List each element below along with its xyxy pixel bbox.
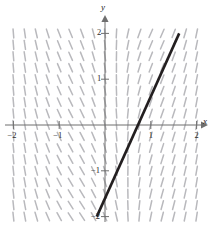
- slope-mark: [92, 109, 95, 117]
- plot-canvas: [0, 0, 213, 228]
- slope-mark: [80, 75, 84, 83]
- slope-mark: [13, 178, 14, 187]
- slope-mark: [13, 201, 14, 210]
- slope-mark: [92, 132, 96, 140]
- slope-mark: [69, 75, 73, 83]
- slope-mark: [127, 40, 129, 49]
- y-axis-arrowhead: [101, 15, 108, 22]
- slope-mark: [116, 109, 117, 118]
- slope-mark: [92, 86, 95, 95]
- slope-mark: [46, 75, 49, 84]
- slope-mark: [35, 52, 37, 61]
- slope-mark: [92, 41, 94, 50]
- slope-mark: [92, 178, 96, 186]
- slope-mark: [13, 143, 14, 152]
- slope-mark: [57, 178, 61, 186]
- slope-mark: [139, 143, 141, 152]
- slope-mark: [69, 41, 73, 49]
- slope-mark: [13, 86, 14, 95]
- slope-mark: [196, 166, 198, 175]
- slope-mark: [184, 86, 186, 95]
- slope-mark: [46, 167, 49, 175]
- slope-mark: [68, 213, 73, 221]
- x-axis-label: x: [203, 117, 207, 126]
- slope-mark: [35, 40, 37, 49]
- slope-mark: [173, 189, 175, 198]
- slope-mark: [13, 63, 14, 72]
- slope-mark: [57, 190, 61, 198]
- slope-mark: [35, 132, 37, 141]
- slope-mark: [116, 155, 117, 164]
- slope-mark: [68, 144, 72, 152]
- slope-mark: [91, 190, 95, 198]
- slope-mark: [128, 132, 129, 141]
- slope-mark: [138, 29, 141, 37]
- slope-mark: [161, 132, 164, 141]
- slope-mark: [196, 63, 198, 72]
- y-tick-label: 2: [97, 28, 101, 37]
- slope-mark: [92, 155, 96, 163]
- slope-mark: [13, 155, 14, 164]
- slope-mark: [69, 110, 73, 118]
- slope-mark: [196, 52, 198, 61]
- y-axis-label: y: [101, 3, 105, 12]
- slope-mark: [80, 64, 83, 72]
- slope-mark: [58, 29, 61, 37]
- slope-mark: [160, 41, 164, 49]
- slope-mark: [80, 213, 85, 221]
- slope-mark: [35, 155, 37, 164]
- slope-mark: [150, 201, 152, 210]
- slope-mark: [127, 63, 128, 72]
- slope-mark: [68, 178, 73, 186]
- slope-mark: [57, 167, 61, 175]
- slope-mark: [57, 52, 60, 60]
- y-tick-label: −2: [91, 212, 100, 221]
- slope-mark: [116, 201, 118, 210]
- slope-mark: [150, 189, 152, 198]
- slope-mark: [161, 86, 164, 94]
- slope-mark: [80, 87, 84, 95]
- slope-mark: [139, 178, 140, 187]
- slope-mark: [127, 86, 128, 95]
- slope-mark: [24, 189, 26, 198]
- slope-mark: [172, 109, 175, 118]
- slope-mark: [184, 155, 186, 164]
- slope-mark: [80, 132, 84, 140]
- slope-mark: [127, 98, 128, 107]
- slope-mark: [80, 201, 85, 209]
- slope-mark: [161, 155, 164, 164]
- slope-mark: [24, 155, 26, 164]
- slope-mark: [161, 166, 164, 175]
- slope-mark: [80, 110, 84, 118]
- slope-mark: [184, 98, 186, 107]
- x-tick-label: 2: [195, 131, 199, 140]
- slope-mark: [80, 190, 85, 198]
- slope-mark: [69, 87, 73, 95]
- slope-mark: [35, 86, 37, 95]
- slope-mark: [138, 109, 140, 118]
- slope-mark: [58, 41, 61, 49]
- slope-mark: [46, 98, 49, 106]
- slope-mark: [184, 189, 186, 198]
- slope-mark: [35, 109, 37, 118]
- y-tick-label: −1: [91, 166, 100, 175]
- slope-mark: [68, 155, 72, 163]
- slope-mark: [24, 75, 25, 84]
- slope-mark: [116, 178, 118, 187]
- slope-mark: [35, 75, 37, 84]
- slope-mark: [46, 52, 49, 61]
- slope-mark: [172, 75, 175, 84]
- x-tick-label: −1: [53, 131, 62, 140]
- slope-mark: [184, 201, 186, 210]
- slope-mark: [196, 29, 198, 38]
- slope-mark: [68, 190, 73, 198]
- slope-mark: [13, 166, 14, 175]
- slope-mark: [161, 144, 164, 153]
- slope-mark: [57, 87, 61, 95]
- slope-mark: [172, 64, 175, 72]
- slope-mark: [196, 143, 198, 152]
- slope-mark: [161, 212, 163, 221]
- slope-mark: [24, 40, 25, 49]
- slope-mark: [172, 86, 175, 95]
- slope-mark: [173, 178, 175, 187]
